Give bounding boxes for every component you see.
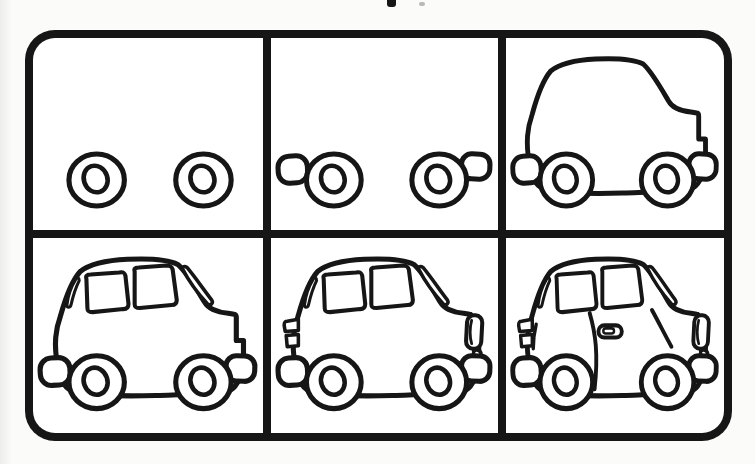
step-5-drawing <box>271 238 498 433</box>
step-panel-1 <box>33 38 263 230</box>
cropped-text-fragment-faint <box>419 2 425 6</box>
step-3-drawing <box>506 38 724 230</box>
tutorial-page <box>0 0 755 464</box>
step-4-drawing <box>33 238 263 433</box>
step-panel-2 <box>271 38 498 230</box>
tutorial-frame <box>25 30 732 441</box>
step-panel-5 <box>271 238 498 433</box>
step-6-drawing <box>506 238 724 433</box>
step-panel-4 <box>33 238 263 433</box>
step-panel-6 <box>506 238 724 433</box>
cropped-text-fragment <box>387 0 396 7</box>
car-wheels <box>306 154 466 206</box>
step-1-drawing <box>33 38 263 230</box>
steps-grid <box>33 38 724 433</box>
car-wheels <box>69 154 231 206</box>
step-2-drawing <box>271 38 498 230</box>
step-panel-3 <box>506 38 724 230</box>
